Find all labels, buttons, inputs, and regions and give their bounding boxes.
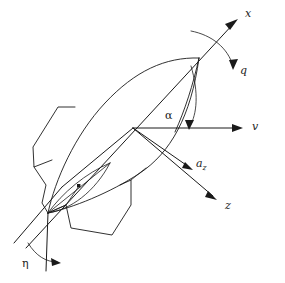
z-axis-back-extension: [62, 128, 133, 187]
x-axis-arrowhead: [225, 19, 238, 30]
label-x-axis: x: [245, 8, 251, 19]
diagram-vector-graphic: [0, 0, 285, 283]
label-az-vector: az: [196, 158, 207, 172]
eta-arc-arrowhead: [51, 258, 61, 266]
upper-left-fin: [33, 107, 75, 167]
az-vector-line: [133, 128, 189, 167]
label-eta-angle: η: [22, 258, 29, 269]
forward-fin: [131, 168, 146, 180]
label-z-axis: z: [225, 200, 231, 211]
control-surface-chord: [48, 163, 110, 213]
q-arc-arrowhead: [229, 59, 238, 70]
diagram-canvas: x q v α az z η: [0, 0, 285, 283]
label-alpha-angle: α: [165, 110, 172, 121]
label-q-rotation: q: [240, 65, 247, 76]
lower-right-fin: [66, 180, 131, 235]
z-axis-arrowhead: [205, 191, 217, 200]
control-surface-pivot-dot: [77, 184, 80, 187]
v-axis-arrowhead: [232, 124, 243, 132]
label-v-axis: v: [252, 121, 258, 132]
label-az-subscript: z: [203, 163, 207, 172]
x-axis-line: [26, 22, 235, 248]
eta-second-leg: [46, 213, 48, 271]
q-rotation-arc: [191, 31, 233, 66]
